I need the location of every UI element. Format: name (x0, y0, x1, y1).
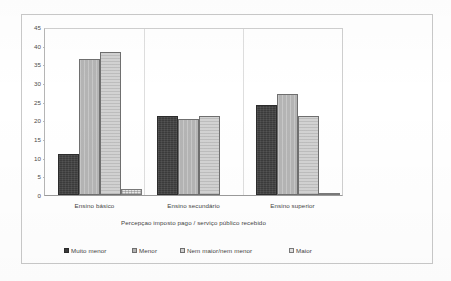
y-tick-label: 40 (21, 43, 41, 51)
legend-swatch-icon (132, 248, 137, 253)
y-tick-label: 25 (21, 99, 41, 107)
bar-nem-maior-nem-menor (100, 52, 121, 195)
bar-menor (79, 59, 100, 195)
legend-item-menor: Menor (132, 246, 157, 255)
bar-maior (121, 189, 142, 195)
bar-group-ensino-secundario (144, 29, 243, 195)
y-tick-label: 45 (21, 24, 41, 32)
legend-label: Muito menor (71, 246, 107, 255)
legend-label: Nem maior/nem menor (187, 246, 252, 255)
x-axis-category-label: Ensino superior (243, 202, 342, 210)
bar-maior (319, 193, 340, 195)
y-tick-label: 15 (21, 136, 41, 144)
legend-swatch-icon (64, 248, 69, 253)
x-axis-title: Percepçao imposto pago / serviço público… (44, 218, 343, 227)
legend-item-muito-menor: Muito menor (64, 246, 107, 255)
bar-group-ensino-basico (45, 29, 144, 195)
y-tick-label: 10 (21, 155, 41, 163)
legend-swatch-icon (180, 248, 185, 253)
bar-menor (277, 94, 298, 195)
y-tick-label: 0 (21, 192, 41, 200)
bar-muito-menor (58, 154, 79, 195)
plot-area (44, 28, 343, 196)
y-axis: 45 40 35 30 25 20 15 10 5 0 (21, 22, 41, 202)
bar-group-ensino-superior (243, 29, 342, 195)
y-tick-label: 30 (21, 80, 41, 88)
y-tick-label: 20 (21, 117, 41, 125)
bar-menor (178, 119, 199, 195)
bar-nem-maior-nem-menor (298, 116, 319, 195)
x-axis-category-label: Ensino básico (45, 202, 144, 210)
legend-swatch-icon (289, 248, 294, 253)
x-axis-category-label: Ensino secundário (144, 202, 243, 210)
bar-muito-menor (256, 105, 277, 195)
legend-label: Maior (296, 246, 312, 255)
legend-item-maior: Maior (289, 246, 312, 255)
chart-legend: Muito menor Menor Nem maior/nem menor Ma… (40, 246, 370, 258)
y-tick-label: 5 (21, 173, 41, 181)
y-tick-label: 35 (21, 61, 41, 69)
bar-nem-maior-nem-menor (199, 116, 220, 195)
legend-item-nem-maior-nem-menor: Nem maior/nem menor (180, 246, 252, 255)
legend-label: Menor (139, 246, 157, 255)
bar-muito-menor (157, 116, 178, 195)
